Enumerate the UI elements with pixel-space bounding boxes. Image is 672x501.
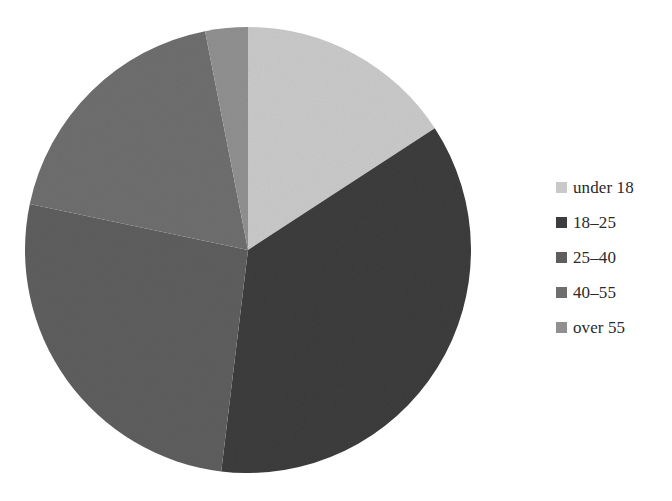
legend-item[interactable]: 25–40 (556, 240, 672, 275)
legend-item[interactable]: 40–55 (556, 275, 672, 310)
pie-slice[interactable] (25, 204, 248, 471)
legend-swatch-icon (556, 322, 567, 333)
legend-item[interactable]: 18–25 (556, 205, 672, 240)
legend-item[interactable]: under 18 (556, 170, 672, 205)
legend-swatch-icon (556, 217, 567, 228)
legend-swatch-icon (556, 287, 567, 298)
legend-item-label: under 18 (573, 179, 634, 196)
legend-item-label: 40–55 (573, 284, 616, 301)
pie-chart-plot-area (25, 27, 471, 473)
legend-item-label: 18–25 (573, 214, 616, 231)
pie-chart-figure: under 18 18–25 25–40 40–55 over 55 (0, 0, 672, 501)
pie-slices-group (25, 27, 471, 473)
legend-item-label: over 55 (573, 319, 625, 336)
legend-swatch-icon (556, 182, 567, 193)
chart-legend: under 18 18–25 25–40 40–55 over 55 (556, 170, 672, 345)
pie-svg (25, 27, 471, 473)
legend-item-label: 25–40 (573, 249, 616, 266)
legend-item[interactable]: over 55 (556, 310, 672, 345)
legend-swatch-icon (556, 252, 567, 263)
